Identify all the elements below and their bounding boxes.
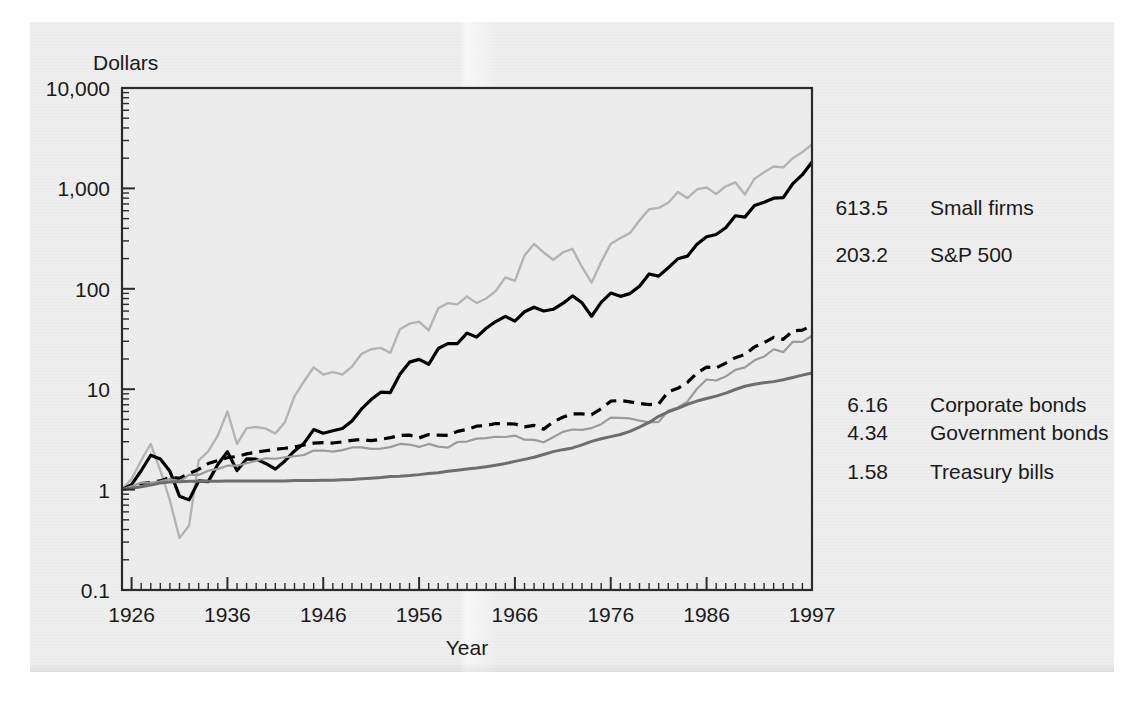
x-axis-title: Year (446, 636, 488, 659)
log-line-chart: 10,0001,0001001010.1 1926193619461956196… (0, 0, 1144, 706)
x-tick-label: 1956 (396, 603, 443, 626)
legend-label: Small firms (930, 196, 1034, 219)
x-tick-label: 1936 (204, 603, 251, 626)
x-tick-label: 1946 (300, 603, 347, 626)
y-axis-title: Dollars (93, 51, 158, 74)
legend-label: Corporate bonds (930, 393, 1086, 416)
legend-value: 1.58 (847, 460, 888, 483)
y-axis-tick-labels: 10,0001,0001001010.1 (46, 77, 110, 602)
y-tick-label: 0.1 (81, 579, 110, 602)
legend-label: Government bonds (930, 421, 1109, 444)
x-tick-label: 1926 (108, 603, 155, 626)
legend-value: 6.16 (847, 393, 888, 416)
y-tick-label: 10,000 (46, 77, 110, 100)
x-axis-tick-labels: 19261936194619561966197619861997 (108, 603, 835, 626)
legend-value: 4.34 (847, 421, 888, 444)
plot-area-background (122, 88, 812, 590)
y-tick-label: 100 (75, 278, 110, 301)
legend: 613.5Small firms203.2S&P 5006.16Corporat… (835, 196, 1108, 483)
y-tick-label: 1,000 (57, 177, 110, 200)
x-tick-label: 1966 (492, 603, 539, 626)
x-tick-label: 1976 (587, 603, 634, 626)
y-tick-label: 10 (87, 378, 110, 401)
y-tick-label: 1 (98, 479, 110, 502)
legend-value: 613.5 (835, 196, 888, 219)
x-tick-label: 1997 (789, 603, 836, 626)
legend-label: Treasury bills (930, 460, 1054, 483)
x-tick-label: 1986 (683, 603, 730, 626)
figure-page: 10,0001,0001001010.1 1926193619461956196… (0, 0, 1144, 706)
legend-label: S&P 500 (930, 243, 1013, 266)
legend-value: 203.2 (835, 243, 888, 266)
